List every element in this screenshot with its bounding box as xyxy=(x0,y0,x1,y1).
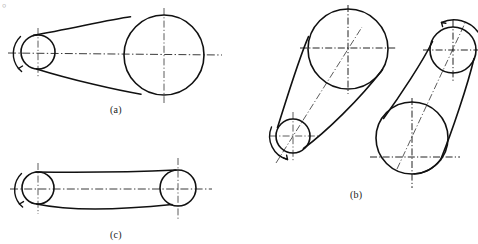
figure-c-belt-lower xyxy=(37,204,173,209)
figure-b-left-inclined-axis xyxy=(276,27,362,163)
figure-b-left-group xyxy=(270,5,397,163)
figure-root: 。 xyxy=(0,0,478,244)
figure-a-rotation-arrowhead-icon xyxy=(19,66,23,72)
figure-b-right-belt-inner xyxy=(441,59,475,161)
figure-b-left-rotation-arc-icon xyxy=(270,127,288,160)
figure-c-rotation-arrowhead-icon xyxy=(20,202,24,207)
figure-b-right-rotation-arrowhead-icon xyxy=(442,23,446,27)
figure-a-belt-lower xyxy=(37,69,142,94)
clipped-caption-strip: 。 xyxy=(0,0,478,9)
figure-a-rotation-arc-icon xyxy=(13,37,20,69)
figure-c-belt-upper xyxy=(36,170,176,172)
figure-a-group xyxy=(8,8,222,103)
figure-a-small-pulley xyxy=(21,35,55,69)
clipped-caption-text: 。 xyxy=(2,0,14,9)
figure-a-horizontal-axis xyxy=(8,53,222,55)
figure-c-group xyxy=(10,158,212,219)
figure-b-right-rotation-arc-icon xyxy=(442,20,478,32)
belt-drive-drawing xyxy=(0,0,478,244)
figure-label-a: (a) xyxy=(110,104,122,115)
figure-b-right-group xyxy=(370,20,478,188)
figure-a-belt-upper xyxy=(34,17,131,36)
figure-label-b: (b) xyxy=(350,189,362,200)
figure-label-c: (c) xyxy=(110,229,122,240)
figure-b-right-belt-outer xyxy=(384,42,433,119)
figure-b-right-belt-bottom xyxy=(414,160,441,174)
